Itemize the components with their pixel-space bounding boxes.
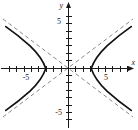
tick-labels-group: -5 5 5 -5 [23, 17, 108, 117]
y-axis-arrow-icon [66, 2, 71, 8]
y-tick-label-negative-5: -5 [55, 108, 62, 117]
y-axis-group [66, 2, 72, 128]
x-axis-label: x [130, 58, 135, 67]
plot-canvas: -5 5 5 -5 y x [0, 0, 138, 130]
x-axis-group [1, 66, 134, 72]
y-tick-label-positive-5: 5 [57, 17, 61, 26]
y-axis-label: y [58, 1, 63, 10]
hyperbola-figure: -5 5 5 -5 y x [0, 0, 138, 130]
x-tick-label-negative-5: -5 [23, 73, 30, 82]
x-tick-label-positive-5: 5 [104, 73, 108, 82]
